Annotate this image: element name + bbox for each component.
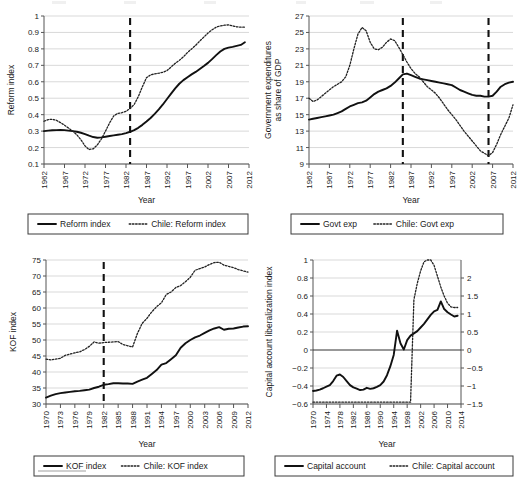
x-tick-label-6: 1992 [163,170,172,188]
x-tick-label-1: 1974 [323,410,332,428]
x-axis-title: Year [402,195,419,205]
panel-govt-exp: 2725232119171513119196219671972197719821… [261,0,522,244]
x-tick-label-0: 1970 [309,410,318,428]
y-tick-label-7: −0.4 [292,382,308,391]
x-tick-label-12: 2006 [215,410,224,428]
y-tick-label-7: 0.3 [28,127,40,136]
y-tick-label-5: 50 [32,336,41,345]
series-dotted-1 [46,262,248,360]
y2-tick-label-2: 1 [467,310,472,319]
page-artifact-top-6 [430,1,442,4]
chart-capital-account: 10.80.60.40.20−0.2−0.4−0.621.510.50−0.5−… [261,244,522,488]
x-tick-label-6: 1988 [129,410,138,428]
panel-kof-index: 7570656055504540353019701973197619791982… [0,244,261,488]
x-tick-label-1: 1967 [61,170,70,188]
x-tick-label-9: 1997 [172,410,181,428]
y-tick-label-0: 27 [295,12,304,21]
x-tick-label-4: 1986 [363,410,372,428]
series-dotted-1 [309,28,513,156]
x-tick-label-9: 2007 [225,170,234,188]
x-tick-label-9: 2006 [430,410,439,428]
x-tick-label-0: 1962 [305,170,314,188]
x-tick-label-4: 1982 [387,170,396,188]
x-tick-label-7: 1998 [403,410,412,428]
x-tick-label-2: 1976 [71,410,80,428]
y-tick-label-8: 35 [32,384,41,393]
y2-tick-label-3: 0.5 [467,328,479,337]
page-artifact-top-2 [124,1,136,4]
y-tick-label-1: 70 [32,272,41,281]
y-tick-label-8: 0.2 [28,144,40,153]
y-tick-label-4: 19 [295,78,304,87]
x-tick-label-0: 1962 [40,170,49,188]
y-axis-title-line-0: Reform index [6,64,16,115]
x-tick-label-7: 1997 [184,170,193,188]
page-artifact-line [38,470,86,472]
y-tick-label-8: −0.6 [292,400,308,409]
y-tick-label-9: 9 [300,160,305,169]
y-tick-label-9: 30 [32,400,41,409]
legend-label-0: Reform index [60,219,111,229]
legend-label-0: Govt exp [323,219,357,229]
x-tick-label-2: 1972 [346,170,355,188]
x-tick-label-11: 2003 [201,410,210,428]
x-tick-label-4: 1982 [122,170,131,188]
x-tick-label-3: 1982 [349,410,358,428]
y-tick-label-6: 45 [32,352,41,361]
y2-tick-label-1: 1.5 [467,292,479,301]
y-tick-label-5: 0 [304,346,309,355]
series-dotted-1 [313,260,458,402]
x-tick-label-0: 1970 [42,410,51,428]
y-tick-label-5: 0.5 [28,94,40,103]
y2-tick-label-5: −0.5 [467,364,483,373]
y-tick-label-3: 0.4 [297,310,309,319]
x-tick-label-7: 1997 [448,170,457,188]
y-tick-label-4: 55 [32,320,41,329]
y-tick-label-5: 17 [295,94,304,103]
x-tick-label-1: 1973 [56,410,65,428]
x-tick-label-5: 1985 [114,410,123,428]
plot-area-reform-index: 10.90.80.70.60.50.40.30.20.1196219671972… [6,12,254,234]
y-axis-title-line-0: Government expenditures [263,41,273,139]
x-tick-label-6: 1994 [390,410,399,428]
y-tick-label-9: 0.1 [28,160,40,169]
x-tick-label-3: 1977 [102,170,111,188]
page-artifact-top-3 [204,1,216,4]
page-artifact-top-4 [296,1,306,4]
x-tick-label-4: 1982 [100,410,109,428]
x-tick-label-7: 1991 [143,410,152,428]
y-tick-label-0: 1 [35,12,40,21]
x-tick-label-1: 1967 [325,170,334,188]
y-tick-label-6: 15 [295,111,304,120]
x-tick-label-2: 1978 [336,410,345,428]
y-axis-title-line-0: KOF index [8,311,18,352]
plot-area-capital-account: 10.80.60.40.20−0.2−0.4−0.621.510.50−0.5−… [264,256,513,476]
series-solid-0 [313,301,458,391]
series-solid-0 [46,326,248,397]
chart-reform-index: 10.90.80.70.60.50.40.30.20.1196219671972… [0,0,261,244]
y-tick-label-2: 23 [295,45,304,54]
panel-capital-account: 10.80.60.40.20−0.2−0.4−0.621.510.50−0.5−… [261,244,522,488]
y-tick-label-3: 0.7 [28,61,40,70]
legend-label-0: Capital account [307,461,366,471]
y2-tick-label-0: 2 [467,274,472,283]
x-tick-label-10: 2010 [444,410,453,428]
x-tick-label-5: 1987 [407,170,416,188]
x-axis-title: Year [378,439,395,449]
y-tick-label-0: 75 [32,256,41,265]
x-tick-label-10: 2012 [245,170,254,188]
y-tick-label-7: 13 [295,127,304,136]
y-tick-label-1: 25 [295,28,304,37]
x-tick-label-3: 1979 [85,410,94,428]
series-solid-0 [44,42,245,137]
x-tick-label-14: 2012 [244,410,253,428]
x-tick-label-13: 2009 [230,410,239,428]
y-tick-label-2: 65 [32,288,41,297]
y-tick-label-4: 0.6 [28,78,40,87]
chart-govt-exp: 2725232119171513119196219671972197719821… [261,0,522,244]
panel-reform-index: 10.90.80.70.60.50.40.30.20.1196219671972… [0,0,261,244]
y2-tick-label-7: −1.5 [467,400,483,409]
figure-grid: 10.90.80.70.60.50.40.30.20.1196219671972… [0,0,522,488]
y-tick-label-2: 0.8 [28,45,40,54]
legend-label-1: Chile: KOF index [143,461,208,471]
